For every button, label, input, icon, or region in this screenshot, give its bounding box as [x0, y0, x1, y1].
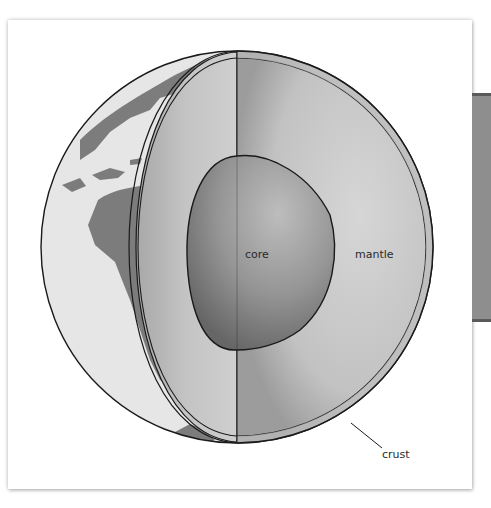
earth-cutaway-diagram: core mantle crust: [0, 0, 491, 508]
mantle-label: mantle: [355, 248, 394, 261]
crust-leader-line: [351, 423, 382, 448]
crust-label: crust: [382, 448, 410, 461]
core-label: core: [245, 248, 269, 261]
